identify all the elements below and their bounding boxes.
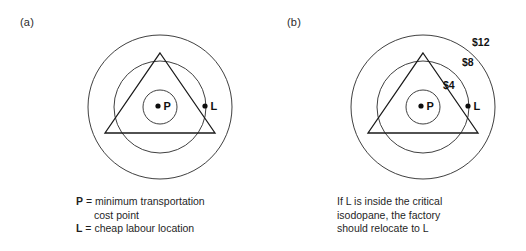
point-l-dot-a [202,103,207,108]
point-p-dot-a [155,103,160,108]
point-p-label-a: P [164,100,171,112]
caption-line-1: P = minimum transportation [76,195,205,209]
panel-b: (b) P L $12 $8 $4 If L is inside the cri… [263,0,526,251]
panel-b-caption: If L is inside the critical isodopane, t… [337,195,442,236]
caption-text-3: cheap labour location [94,222,194,234]
caption-text-1: minimum transportation [95,195,205,207]
panel-a: (a) P L P = minimum transportation cost … [0,0,263,251]
point-l-label-a: L [211,100,218,112]
caption-sep-3: = [82,222,94,234]
caption-text-2: cost point [94,209,139,221]
panel-b-diagram: P L $12 $8 $4 [263,0,526,185]
point-p-dot-b [418,103,423,108]
caption-b-line-2: isodopane, the factory [337,209,442,223]
caption-line-3: L = cheap labour location [76,222,205,236]
caption-line-2: cost point [76,209,205,223]
isodapane-value-12-label: $12 [472,36,490,48]
caption-b-line-3: should relocate to L [337,222,442,236]
figure-weber-isodapane-diagram: (a) P L P = minimum transportation cost … [0,0,526,251]
caption-b-line-1: If L is inside the critical [337,195,442,209]
caption-sep-1: = [83,195,95,207]
isodapane-value-4-label: $4 [443,79,455,91]
panel-a-diagram: P L [0,0,263,185]
caption-key-p: P [76,195,83,207]
panel-a-caption: P = minimum transportation cost point L … [76,195,205,236]
point-p-label-b: P [427,100,434,112]
point-l-label-b: L [474,100,481,112]
locational-triangle-a [105,53,215,133]
isodapane-value-8-label: $8 [462,56,474,68]
point-l-dot-b [465,103,470,108]
